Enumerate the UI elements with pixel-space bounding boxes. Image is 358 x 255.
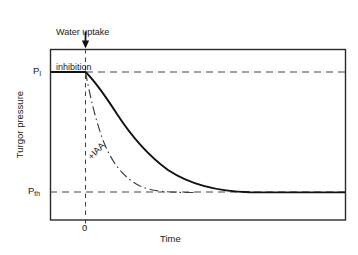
x-tick-label-zero: 0 [82, 222, 87, 233]
plot-canvas [0, 0, 358, 255]
y-axis-title: Turgor pressure [14, 65, 25, 185]
annotation-water-uptake-inhibition: Water uptake inhibition [56, 4, 109, 96]
annotation-line-2: inhibition [56, 62, 109, 74]
turgor-pressure-figure: Water uptake inhibition Turgor pressure … [0, 0, 358, 255]
p-threshold-label: Pth [28, 185, 40, 197]
annotation-line-1: Water uptake [56, 27, 109, 39]
p-initial-label: PI [33, 65, 41, 77]
x-axis-title: Time [160, 233, 181, 244]
p-initial-subscript: I [39, 70, 41, 77]
p-threshold-subscript: th [34, 190, 40, 197]
